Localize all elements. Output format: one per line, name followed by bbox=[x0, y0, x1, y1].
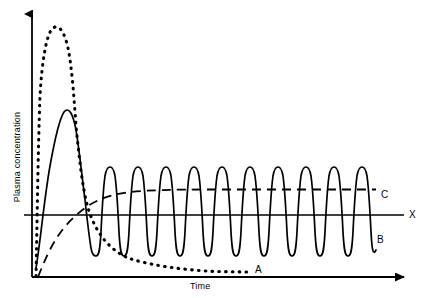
series-a-dotted-curve bbox=[36, 27, 250, 276]
chart-canvas bbox=[0, 0, 421, 298]
series-label-c: C bbox=[381, 189, 388, 200]
x-axis-label: Time bbox=[190, 281, 210, 291]
series-b-solid-curve bbox=[36, 110, 376, 268]
series-label-b: B bbox=[377, 234, 384, 245]
plasma-concentration-chart: Plasma concentration Time A B C X bbox=[0, 0, 421, 298]
series-label-a: A bbox=[255, 264, 262, 275]
reference-line-label-x: X bbox=[409, 209, 416, 220]
y-axis-label: Plasma concentration bbox=[12, 102, 22, 212]
